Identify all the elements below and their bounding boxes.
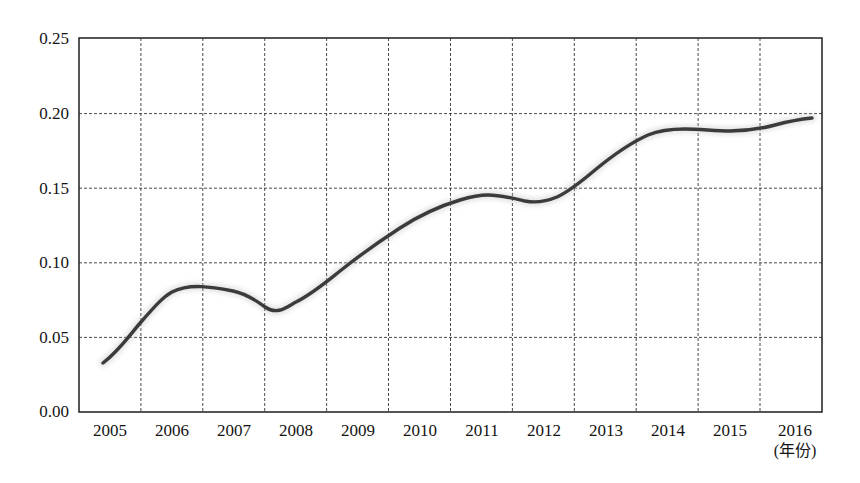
xtick-label-2015: 2015 xyxy=(713,421,747,440)
xtick-label-2014: 2014 xyxy=(651,421,686,440)
xtick-label-2008: 2008 xyxy=(279,421,313,440)
xtick-label-2006: 2006 xyxy=(155,421,189,440)
ytick-label-0: 0.25 xyxy=(39,29,69,48)
xtick-label-2009: 2009 xyxy=(341,421,375,440)
ytick-label-4: 0.05 xyxy=(39,328,69,347)
xtick-label-2016: 2016 xyxy=(778,421,812,440)
xtick-label-2007: 2007 xyxy=(217,421,252,440)
xtick-label-2010: 2010 xyxy=(403,421,437,440)
ytick-label-3: 0.10 xyxy=(39,253,69,272)
chart-background xyxy=(0,0,860,483)
ytick-label-1: 0.20 xyxy=(39,104,69,123)
xtick-label-2013: 2013 xyxy=(589,421,623,440)
xtick-label-2005: 2005 xyxy=(93,421,127,440)
xtick-label-2011: 2011 xyxy=(465,421,498,440)
chart-figure: 0.25 0.20 0.15 0.10 0.05 0.00 2005 2006 … xyxy=(0,0,860,483)
ytick-label-5: 0.00 xyxy=(39,402,69,421)
line-chart: 0.25 0.20 0.15 0.10 0.05 0.00 2005 2006 … xyxy=(0,0,860,483)
ytick-label-2: 0.15 xyxy=(39,179,69,198)
xtick-label-2012: 2012 xyxy=(527,421,561,440)
x-axis-unit-label: (年份) xyxy=(774,442,817,460)
